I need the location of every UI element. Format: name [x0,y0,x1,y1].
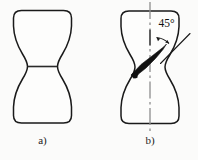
angle-label: 45° [159,17,176,29]
figure-container: a) 45° b) [0,0,198,160]
panel-b: 45° b) [121,2,190,147]
panel-a: a) [14,11,72,148]
tensile-specimen-diagram: a) 45° b) [0,0,198,160]
panel-caption-b: b) [145,134,155,147]
panel-caption-a: a) [38,134,47,147]
